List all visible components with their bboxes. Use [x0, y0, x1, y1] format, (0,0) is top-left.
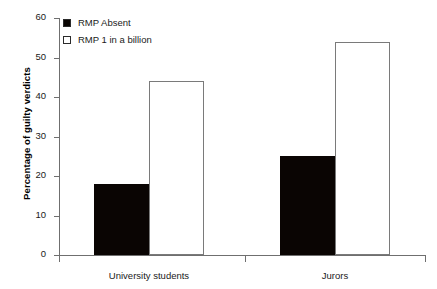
y-axis-tick-label: 0 [41, 248, 46, 259]
x-axis-tick [245, 256, 246, 262]
y-axis-tick: 40 [54, 97, 59, 98]
y-axis-line [59, 18, 60, 256]
y-axis-tick-label: 40 [35, 90, 46, 101]
legend-label: RMP Absent [78, 17, 131, 28]
y-axis-tick-label: 10 [35, 209, 46, 220]
legend: RMP AbsentRMP 1 in a billion [63, 14, 152, 48]
x-axis-tick [59, 256, 60, 262]
x-axis-line [59, 255, 426, 256]
y-axis-tick: 60 [54, 18, 59, 19]
legend-swatch-filled [63, 19, 71, 27]
bar-chart-figure: Percentage of guilty verdicts 0102030405… [0, 0, 437, 289]
bar [94, 184, 149, 255]
x-axis-category-label: University students [109, 270, 189, 281]
legend-label: RMP 1 in a billion [78, 34, 152, 45]
y-axis-tick: 20 [54, 176, 59, 177]
y-axis-tick: 10 [54, 216, 59, 217]
y-axis-tick-label: 20 [35, 169, 46, 180]
plot-area: 0102030405060 University studentsJurors [59, 18, 425, 255]
y-axis-tick: 30 [54, 137, 59, 138]
y-axis-tick-label: 30 [35, 130, 46, 141]
legend-item: RMP Absent [63, 14, 152, 31]
y-axis-tick: 50 [54, 58, 59, 59]
bar [280, 156, 335, 255]
legend-swatch-hollow [63, 36, 71, 44]
x-axis-category-label: Jurors [322, 270, 348, 281]
y-axis-tick-label: 50 [35, 51, 46, 62]
legend-item: RMP 1 in a billion [63, 31, 152, 48]
x-axis-tick [425, 256, 426, 262]
bar [149, 81, 204, 255]
y-axis-title: Percentage of guilty verdicts [21, 14, 32, 254]
bar [335, 42, 390, 255]
y-axis-tick-label: 60 [35, 11, 46, 22]
